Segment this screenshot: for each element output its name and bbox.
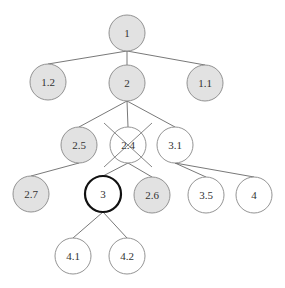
edge-3-to-4.2: [103, 212, 127, 238]
edge-2.5-to-2.7: [31, 163, 79, 176]
tree-node-2-6: 2.6: [134, 177, 170, 213]
edge-3-to-4.1: [73, 212, 103, 238]
node-label: 1.2: [41, 76, 55, 88]
edge-2.4-to-2.6: [128, 163, 152, 177]
tree-node-3-5: 3.5: [188, 177, 224, 213]
edge-2-to-2.5: [79, 101, 127, 127]
tree-node-3: 3: [85, 176, 121, 212]
tree-node-1-2: 1.2: [30, 64, 66, 100]
tree-node-4-2: 4.2: [109, 238, 145, 274]
edge-3.1-to-4: [175, 163, 254, 177]
tree-node-3-1: 3.1: [157, 127, 193, 163]
tree-node-4-1: 4.1: [55, 238, 91, 274]
node-label: 3.5: [199, 189, 213, 201]
tree-node-2-7: 2.7: [13, 176, 49, 212]
node-label: 4: [251, 189, 257, 201]
tree-node-2-4: 2.4: [104, 123, 152, 167]
node-label: 4.1: [66, 250, 80, 262]
edge-2-to-2.4: [127, 101, 128, 127]
node-label: 2.7: [24, 188, 38, 200]
node-label: 3: [100, 188, 106, 200]
tree-node-1: 1: [109, 15, 145, 51]
edge-2-to-3.1: [127, 101, 175, 127]
tree-node-1-1: 1.1: [187, 65, 223, 101]
tree-diagram: 11.221.12.52.43.12.732.63.544.14.2: [0, 0, 285, 288]
edge-3.1-to-3.5: [175, 163, 206, 177]
edge-1-to-1.1: [127, 51, 205, 65]
node-label: 4.2: [120, 250, 134, 262]
node-label: 2.5: [72, 139, 86, 151]
node-label: 2: [124, 77, 130, 89]
tree-node-4: 4: [236, 177, 272, 213]
node-label: 3.1: [168, 139, 182, 151]
node-label: 1: [124, 27, 130, 39]
edge-1-to-1.2: [48, 51, 127, 64]
tree-node-2: 2: [109, 65, 145, 101]
tree-node-2-5: 2.5: [61, 127, 97, 163]
node-label: 1.1: [198, 77, 212, 89]
node-label: 2.6: [145, 189, 159, 201]
